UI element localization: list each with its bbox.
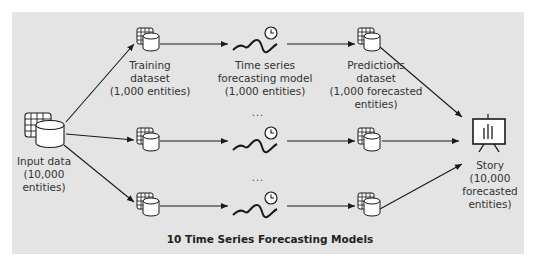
training-dataset-icon-row3	[137, 193, 159, 216]
label-line: (1,000 entities)	[110, 85, 191, 98]
label-line: (1,000 entities)	[218, 85, 313, 98]
label-line: (1,000 forecasted	[329, 85, 422, 98]
label-line: entities)	[329, 98, 422, 111]
predictions-dataset-icon-row3	[358, 193, 380, 216]
time-series-model-label: Time series forecasting model (1,000 ent…	[218, 59, 313, 98]
input-data-label: Input data (10,000 entities)	[17, 155, 71, 194]
time-series-model-icon	[233, 27, 277, 52]
label-line: dataset	[110, 72, 191, 85]
training-dataset-icon-row2	[137, 128, 159, 151]
diagram-caption: 10 Time Series Forecasting Models	[167, 233, 373, 245]
label-line: forecasting model	[218, 72, 313, 85]
ellipsis-row3: ...	[252, 172, 265, 183]
label-line: Input data	[17, 155, 71, 168]
label-line: Predictions	[329, 59, 422, 72]
time-series-model-icon-row2	[233, 127, 277, 152]
story-presentation-icon	[473, 114, 505, 152]
predictions-dataset-icon	[358, 28, 380, 51]
label-line: (10,000	[462, 172, 518, 185]
story-label: Story (10,000 forecasted entities)	[462, 159, 518, 211]
ellipsis-row2: ...	[252, 107, 265, 118]
label-line: entities)	[17, 181, 71, 194]
training-dataset-label: Training dataset (1,000 entities)	[110, 59, 191, 98]
label-line: Training	[110, 59, 191, 72]
input-data-icon	[25, 113, 64, 148]
label-line: (10,000	[17, 168, 71, 181]
label-line: dataset	[329, 72, 422, 85]
time-series-model-icon-row3	[233, 192, 277, 217]
label-line: entities)	[462, 198, 518, 211]
predictions-dataset-label: Predictions dataset (1,000 forecasted en…	[329, 59, 422, 111]
label-line: Story	[462, 159, 518, 172]
label-line: Time series	[218, 59, 313, 72]
predictions-dataset-icon-row2	[358, 128, 380, 151]
training-dataset-icon	[137, 28, 159, 51]
cropped-footer-text	[20, 266, 260, 270]
label-line: forecasted	[462, 185, 518, 198]
